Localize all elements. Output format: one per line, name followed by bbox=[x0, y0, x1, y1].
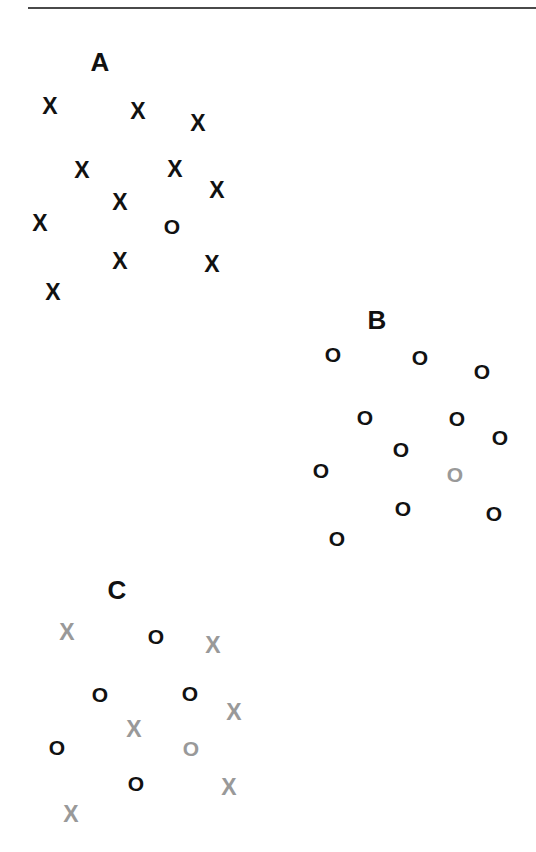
cluster-label-a: A bbox=[91, 49, 110, 75]
cluster-label-b: B bbox=[368, 307, 387, 333]
cluster-labels-layer: ABC bbox=[0, 0, 536, 852]
cluster-label-c: C bbox=[108, 577, 127, 603]
scatter-figure: XXXXXXXXOXXXOOOOOOOOOOOOXOXOOXXOOOXX ABC bbox=[0, 0, 536, 852]
